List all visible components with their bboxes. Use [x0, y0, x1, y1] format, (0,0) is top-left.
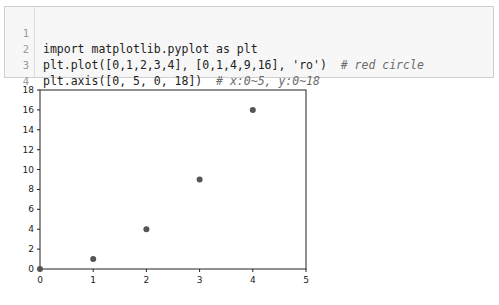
x-tick-label: 4 — [243, 275, 263, 285]
data-point-marker — [250, 107, 256, 113]
y-tick-label: 14 — [0, 125, 34, 135]
axes-frame — [40, 90, 306, 269]
x-tick-label: 3 — [190, 275, 210, 285]
y-tick-label: 8 — [0, 184, 34, 194]
y-tick-label: 10 — [0, 165, 34, 175]
x-tick-label: 0 — [30, 275, 50, 285]
data-point-marker — [90, 256, 96, 262]
y-tick-label: 16 — [0, 105, 34, 115]
y-tick-label: 12 — [0, 145, 34, 155]
data-point-marker — [143, 226, 149, 232]
y-tick-label: 0 — [0, 264, 34, 274]
y-tick-label: 18 — [0, 85, 34, 95]
data-point-marker — [37, 266, 43, 272]
x-tick-label: 2 — [136, 275, 156, 285]
x-tick-label: 1 — [83, 275, 103, 285]
y-tick-label: 6 — [0, 204, 34, 214]
y-tick-label: 2 — [0, 244, 34, 254]
data-point-marker — [197, 177, 203, 183]
y-tick-label: 4 — [0, 224, 34, 234]
x-tick-label: 5 — [296, 275, 316, 285]
plot-canvas — [0, 0, 499, 305]
